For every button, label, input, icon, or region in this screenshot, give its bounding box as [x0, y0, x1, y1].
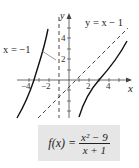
- y-tick-label: 2: [61, 54, 66, 64]
- function-formula: f(x) = x² − 9 x + 1: [38, 125, 120, 161]
- asymptote-leader-line: [42, 51, 56, 60]
- left-branch-curve: [17, 29, 48, 118]
- x-tick-label: 4: [106, 81, 111, 91]
- formula-fraction: x² − 9 x + 1: [79, 131, 110, 156]
- oblique-asymptote-label: y = x − 1: [85, 17, 123, 28]
- y-axis-label: y: [60, 10, 64, 21]
- x-tick-label: 2: [86, 81, 91, 91]
- y-tick-label: 4: [61, 33, 66, 43]
- vertical-asymptote-label: x = −1: [3, 44, 31, 55]
- formula-denominator: x + 1: [81, 144, 108, 156]
- x-axis-label: x: [128, 82, 133, 94]
- formula-lhs: f(x) =: [48, 136, 76, 151]
- y-axis-arrow-icon: [67, 13, 72, 19]
- formula-numerator: x² − 9: [79, 131, 110, 144]
- x-tick-label: −4: [21, 81, 31, 91]
- x-tick-label: −2: [41, 81, 51, 91]
- formula-box: f(x) = x² − 9 x + 1: [38, 125, 120, 161]
